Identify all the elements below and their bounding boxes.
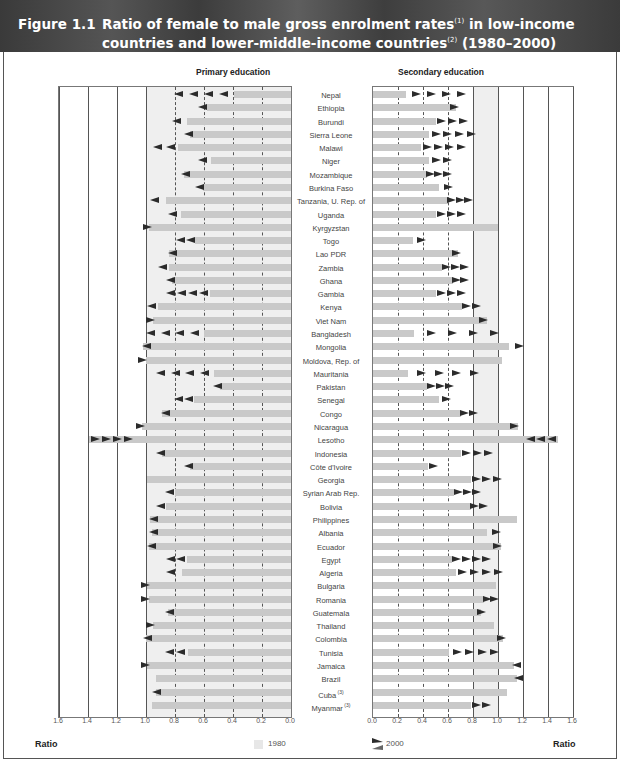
country-label: Romania xyxy=(290,596,372,605)
arrow-2000-icon xyxy=(460,277,469,283)
country-label: Ecuador xyxy=(290,543,372,552)
arrow-2000-icon xyxy=(536,436,545,442)
arrow-2000-icon xyxy=(195,184,204,190)
arrow-2000-icon xyxy=(184,131,193,137)
country-label: Ghana xyxy=(290,277,372,286)
secondary-1980-bar xyxy=(373,144,421,151)
arrow-2000-icon xyxy=(166,556,175,562)
secondary-1980-bar xyxy=(373,343,509,350)
arrow-2000-icon xyxy=(429,463,438,469)
gridline xyxy=(88,87,89,717)
arrow-2000-icon xyxy=(199,290,208,296)
arrow-2000-icon xyxy=(171,370,180,376)
arrow-2000-icon xyxy=(450,104,459,110)
arrow-2000-icon xyxy=(473,450,482,456)
arrow-2000-icon xyxy=(437,118,446,124)
arrow-2000-icon xyxy=(435,370,444,376)
primary-1980-bar xyxy=(152,702,291,709)
country-label: Jamaica xyxy=(290,662,372,671)
arrow-2000-icon xyxy=(458,569,467,575)
arrow-2000-icon xyxy=(166,290,175,296)
gridline xyxy=(523,87,524,717)
arrow-2000-icon xyxy=(448,330,457,336)
primary-tick-label: 1.4 xyxy=(82,717,92,724)
arrow-2000-icon xyxy=(102,436,111,442)
primary-tick-label: 1.6 xyxy=(53,717,63,724)
arrow-2000-icon xyxy=(198,157,207,163)
arrow-2000-icon xyxy=(443,171,452,177)
arrow-2000-icon xyxy=(165,489,174,495)
secondary-1980-bar xyxy=(373,423,518,430)
arrow-2000-icon xyxy=(490,649,499,655)
primary-tick-label: 0.8 xyxy=(169,717,179,724)
arrow-2000-icon xyxy=(484,450,493,456)
arrow-2000-icon xyxy=(437,211,446,217)
arrow-2000-icon xyxy=(478,649,487,655)
arrow-2000-icon xyxy=(452,556,461,562)
secondary-tick-label: 1.6 xyxy=(567,717,577,724)
secondary-1980-bar xyxy=(373,317,487,324)
arrow-2000-icon xyxy=(185,370,194,376)
country-label: Viet Nam xyxy=(290,317,372,326)
secondary-1980-bar xyxy=(373,689,507,696)
arrow-2000-icon xyxy=(149,516,158,522)
arrow-2000-icon xyxy=(470,569,479,575)
arrow-2000-icon xyxy=(452,370,461,376)
arrow-2000-icon xyxy=(469,330,478,336)
legend-1980-swatch xyxy=(254,740,263,749)
primary-1980-bar xyxy=(182,569,291,576)
legend-2000-label: 2000 xyxy=(386,739,404,748)
arrow-2000-icon xyxy=(434,144,443,150)
arrow-2000-icon xyxy=(463,489,472,495)
country-label: Albania xyxy=(290,529,372,538)
country-label: Uganda xyxy=(290,211,372,220)
secondary-1980-bar xyxy=(373,649,449,656)
arrow-2000-icon xyxy=(149,529,158,535)
secondary-1980-bar xyxy=(373,184,439,191)
arrow-2000-icon xyxy=(457,211,466,217)
arrow-2000-icon xyxy=(417,370,426,376)
primary-tick-label: 1.0 xyxy=(140,717,150,724)
country-label: Algeria xyxy=(290,569,372,578)
secondary-1980-bar xyxy=(373,410,461,417)
secondary-1980-bar xyxy=(373,250,458,257)
arrow-2000-icon xyxy=(175,330,184,336)
primary-1980-bar xyxy=(149,224,291,231)
secondary-1980-bar xyxy=(373,582,496,589)
primary-1980-bar xyxy=(162,450,291,457)
arrow-2000-icon xyxy=(445,383,454,389)
primary-1980-bar xyxy=(194,396,291,403)
arrow-2000-icon xyxy=(204,91,213,97)
secondary-plot-area xyxy=(372,86,574,718)
arrow-2000-icon xyxy=(219,91,228,97)
country-label: Cuba (3) xyxy=(290,689,372,700)
arrow-2000-icon xyxy=(176,556,185,562)
secondary-tick-label: 0.0 xyxy=(367,717,377,724)
arrow-2000-icon xyxy=(490,330,499,336)
secondary-1980-bar xyxy=(373,569,456,576)
primary-1980-bar xyxy=(204,330,291,337)
arrow-2000-icon xyxy=(477,609,486,615)
arrow-2000-icon xyxy=(138,357,147,363)
primary-tick-label: 0.4 xyxy=(227,717,237,724)
secondary-1980-bar xyxy=(373,330,414,337)
arrow-2000-icon xyxy=(432,157,441,163)
arrow-2000-icon xyxy=(472,556,481,562)
primary-tick-label: 1.2 xyxy=(111,717,121,724)
arrow-2000-icon xyxy=(136,423,145,429)
secondary-1980-bar xyxy=(373,370,408,377)
secondary-1980-bar xyxy=(373,609,481,616)
primary-1980-bar xyxy=(147,662,291,669)
arrow-2000-icon xyxy=(493,476,502,482)
primary-plot-area xyxy=(58,86,292,718)
secondary-1980-bar xyxy=(373,635,503,642)
arrow-2000-icon xyxy=(423,144,432,150)
arrow-2000-icon xyxy=(161,410,170,416)
secondary-1980-bar xyxy=(373,91,406,98)
country-label: Myanmar (3) xyxy=(290,702,372,713)
country-label: Côte d'Ivoire xyxy=(290,463,372,472)
arrow-2000-icon xyxy=(462,450,471,456)
arrow-2000-icon xyxy=(497,635,506,641)
country-label: Guatemala xyxy=(290,609,372,618)
arrow-2000-icon xyxy=(452,250,461,256)
